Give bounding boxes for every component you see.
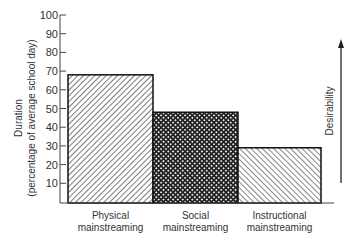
y-axis-sublabel: (percentage of average school day)	[26, 39, 37, 196]
y-axis-label: Duration	[13, 99, 24, 137]
y-tick-label: 50	[46, 103, 58, 115]
category-label: mainstreaming	[163, 222, 229, 233]
category-label: Physical	[92, 210, 129, 221]
y-tick-label: 60	[46, 84, 58, 96]
y-tick-label: 40	[46, 121, 58, 133]
category-labels: PhysicalmainstreamingSocialmainstreaming…	[78, 210, 313, 233]
y-tick-label: 100	[40, 9, 58, 21]
category-label: Social	[182, 210, 209, 221]
y-axis-title: Duration (percentage of average school d…	[13, 39, 37, 196]
bar-chart: Duration (percentage of average school d…	[0, 0, 361, 243]
bar-physical-mainstreaming	[68, 75, 153, 203]
bar-instructional-mainstreaming	[238, 148, 321, 203]
y-tick-label: 10	[46, 177, 58, 189]
y-tick-label: 80	[46, 46, 58, 58]
category-label: mainstreaming	[247, 222, 313, 233]
desirability-annotation: Desirability	[324, 39, 344, 183]
category-label: mainstreaming	[78, 222, 144, 233]
y-axis: 102030405060708090100	[40, 9, 66, 203]
y-tick-label: 20	[46, 159, 58, 171]
bar-social-mainstreaming	[153, 112, 238, 203]
y-tick-label: 70	[46, 65, 58, 77]
arrow-up-icon	[338, 39, 344, 48]
desirability-label: Desirability	[324, 87, 335, 136]
y-tick-label: 90	[46, 28, 58, 40]
y-tick-label: 30	[46, 140, 58, 152]
bars	[68, 75, 321, 203]
category-label: Instructional	[253, 210, 307, 221]
